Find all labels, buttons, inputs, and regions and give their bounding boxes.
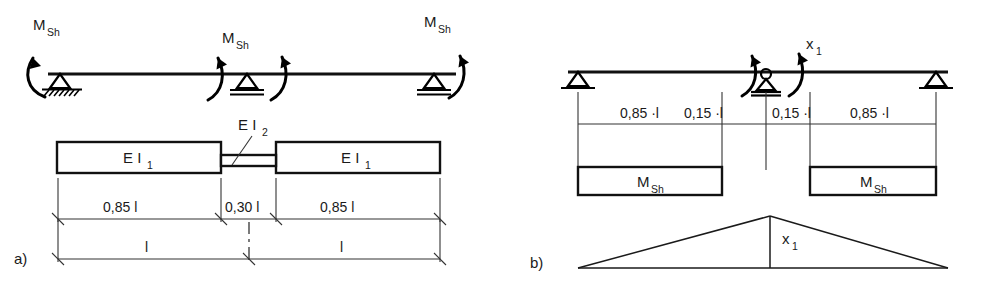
- panel-b: x 1 0,85 ·l 0,15 ·l 0,15 ·l 0,85 ·l: [530, 35, 953, 271]
- dimension-text-b-0: 0,85 ·l: [620, 105, 659, 121]
- moment-arrow-mid-left-a: [208, 58, 227, 100]
- triangle-ordinate-label-b-sub: 1: [792, 240, 798, 252]
- dimension-text-a-0: 0,85 l: [103, 199, 137, 215]
- moment-box-label-right-b-text: M: [860, 173, 873, 190]
- moment-arrow-left-a: [28, 58, 45, 97]
- moment-label-left-a-text: M: [33, 16, 46, 33]
- dimension-text-lower-a-1: l: [340, 239, 343, 255]
- part-label-a: a): [14, 250, 27, 267]
- structural-diagram-figure: M Sh M Sh M Sh E I 1 E I: [0, 0, 988, 282]
- moment-box-label-left-b-sub: Sh: [651, 183, 664, 195]
- moment-box-label-left-b-text: M: [637, 173, 650, 190]
- moment-box-left-b: [578, 167, 722, 195]
- moment-label-right-a-sub: Sh: [438, 23, 451, 35]
- dimension-text-a-2: 0,85 l: [320, 199, 354, 215]
- influence-line-triangle-b: [578, 216, 948, 268]
- redundant-label-b: x 1: [806, 35, 822, 57]
- moment-arrow-hinge-right-b: [789, 54, 808, 96]
- panel-a: M Sh M Sh M Sh E I 1 E I: [14, 13, 469, 267]
- moment-box-right-b: [810, 167, 936, 195]
- dimension-text-b-1: 0,15 ·l: [684, 105, 723, 121]
- moment-label-left-a: M Sh: [33, 16, 60, 38]
- dimension-text-lower-a-0: l: [145, 239, 148, 255]
- support-roller-right-b: [919, 72, 953, 88]
- redundant-label-b-text: x: [806, 35, 814, 52]
- moment-arrow-right-a: [449, 56, 469, 98]
- stiffness-label-left-a-sub: 1: [147, 159, 153, 171]
- stiffness-label-middle-a-sub: 2: [262, 126, 268, 138]
- redundant-label-b-sub: 1: [816, 45, 822, 57]
- stiffness-label-left-a-text: E I: [123, 149, 141, 166]
- dimension-text-b-2: 0,15 ·l: [772, 105, 811, 121]
- dimension-text-a-1: 0,30 l: [225, 199, 259, 215]
- moment-label-right-a-text: M: [424, 13, 437, 30]
- moment-arrow-mid-right-a: [271, 57, 291, 100]
- triangle-ordinate-label-b-text: x: [782, 230, 790, 247]
- stiffness-label-right-a-sub: 1: [365, 159, 371, 171]
- stiffness-label-middle-a-text: E I: [238, 116, 256, 133]
- moment-label-right-a: M Sh: [424, 13, 451, 35]
- stiffness-box-middle-a: [221, 155, 276, 166]
- triangle-ordinate-label-b: x 1: [782, 230, 798, 252]
- dimension-extensions-b: [578, 92, 936, 170]
- moment-label-mid-a: M Sh: [222, 29, 249, 51]
- moment-label-mid-a-text: M: [222, 29, 235, 46]
- dimension-text-b-3: 0,85 ·l: [850, 105, 889, 121]
- part-label-b: b): [530, 254, 543, 271]
- support-roller-left-b: [561, 72, 595, 88]
- stiffness-label-right-a-text: E I: [341, 149, 359, 166]
- support-roller-middle-a: [230, 74, 264, 95]
- support-roller-right-a: [417, 74, 451, 95]
- moment-label-mid-a-sub: Sh: [236, 39, 249, 51]
- moment-label-left-a-sub: Sh: [47, 26, 60, 38]
- support-fixed-pinned-hatched: [42, 74, 82, 96]
- moment-box-label-right-b-sub: Sh: [874, 183, 887, 195]
